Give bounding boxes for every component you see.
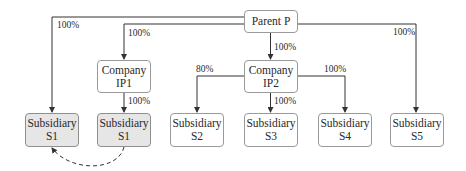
node-s3-line1: Subsidiary <box>246 117 295 130</box>
node-subsidiary-s3: Subsidiary S3 <box>244 113 298 147</box>
node-s5-line1: Subsidiary <box>392 117 441 130</box>
node-company-ip1: Company IP1 <box>97 60 151 93</box>
edge-s1-dashed-curve <box>52 147 124 166</box>
node-subsidiary-s1-direct: Subsidiary S1 <box>25 113 79 147</box>
node-s1-direct-line1: Subsidiary <box>27 117 76 130</box>
node-s1-direct-line2: S1 <box>46 130 58 143</box>
node-s5-line2: S5 <box>411 130 423 143</box>
label-ip1-s1: 100% <box>128 96 150 106</box>
edge-parent-s5 <box>297 24 416 112</box>
node-company-ip2-line2: IP2 <box>263 77 279 90</box>
node-subsidiary-s4: Subsidiary S4 <box>318 113 372 147</box>
node-s2-line2: S2 <box>191 130 203 143</box>
edge-ip2-s2 <box>197 76 244 112</box>
node-s4-line1: Subsidiary <box>320 117 369 130</box>
label-parent-ip2: 100% <box>274 42 296 52</box>
node-subsidiary-s5: Subsidiary S5 <box>390 113 444 147</box>
node-s3-line2: S3 <box>265 130 277 143</box>
node-s1-indirect-line1: Subsidiary <box>99 117 148 130</box>
node-company-ip2: Company IP2 <box>244 60 298 93</box>
node-s1-indirect-line2: S1 <box>118 130 130 143</box>
node-subsidiary-s1-indirect: Subsidiary S1 <box>97 113 151 147</box>
node-company-ip1-line2: IP1 <box>116 77 132 90</box>
label-parent-s5: 100% <box>393 27 415 37</box>
node-s4-line2: S4 <box>339 130 351 143</box>
node-parent-p: Parent P <box>244 10 298 33</box>
label-ip2-s4: 100% <box>324 64 346 74</box>
ownership-diagram: Parent P Company IP1 Company IP2 Subsidi… <box>0 0 466 171</box>
node-company-ip2-line1: Company <box>249 64 294 77</box>
label-ip2-s3: 100% <box>274 96 296 106</box>
label-parent-ip1: 100% <box>128 28 150 38</box>
edge-ip2-s4 <box>297 76 345 112</box>
label-ip2-s2: 80% <box>196 64 213 74</box>
node-subsidiary-s2: Subsidiary S2 <box>170 113 224 147</box>
node-company-ip1-line1: Company <box>102 64 147 77</box>
node-s2-line1: Subsidiary <box>172 117 221 130</box>
node-parent-p-label: Parent P <box>252 15 291 28</box>
label-parent-s1: 100% <box>57 20 79 30</box>
